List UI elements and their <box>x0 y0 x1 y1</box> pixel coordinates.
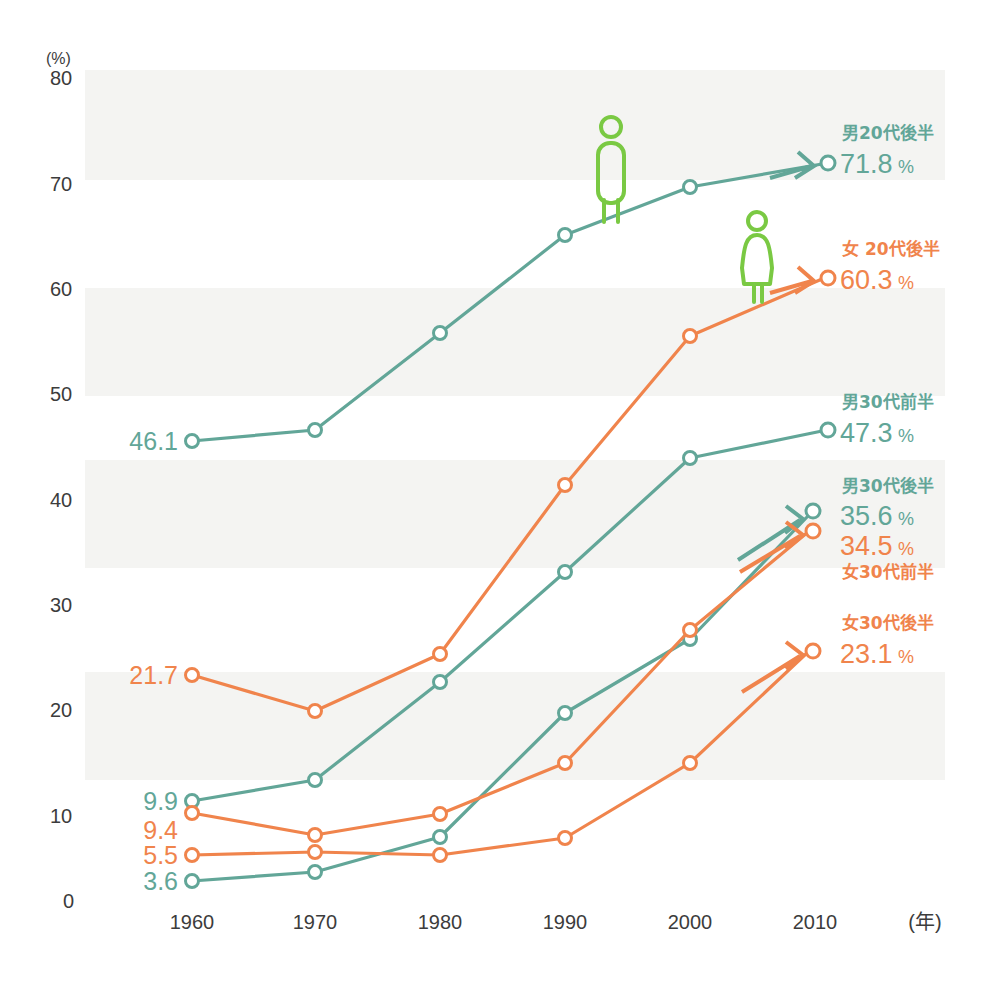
data-point <box>684 757 697 770</box>
data-point <box>684 181 697 194</box>
lead-label-9-9: 9.9 <box>143 787 178 815</box>
data-point-end <box>821 423 835 437</box>
lead-label-5-5: 5.5 <box>143 841 178 869</box>
data-point <box>559 832 572 845</box>
lead-label-21-7: 21.7 <box>129 661 178 689</box>
lead-label-9-4: 9.4 <box>143 816 178 844</box>
end-label-title: 女 20代後半 <box>842 239 940 259</box>
data-point <box>186 807 199 820</box>
y-tick-0: 0 <box>63 890 74 912</box>
data-point-end <box>806 504 820 518</box>
data-point-end <box>821 271 835 285</box>
data-point <box>434 648 447 661</box>
end-label-percent: % <box>898 157 914 177</box>
data-point-end <box>821 156 835 170</box>
data-point <box>186 435 199 448</box>
end-label-male-early30s: 男30代前半 47.3 % <box>840 392 934 448</box>
data-point <box>186 875 199 888</box>
end-label-percent: % <box>898 426 914 446</box>
x-tick-1960: 1960 <box>170 911 215 933</box>
y-tick-10: 10 <box>50 805 72 827</box>
end-label-value: 23.1 <box>840 639 893 669</box>
data-point <box>559 229 572 242</box>
data-point <box>309 846 322 859</box>
data-point <box>434 849 447 862</box>
x-tick-2000: 2000 <box>668 911 713 933</box>
end-label-female-late30s: 女30代後半 23.1 % <box>840 613 934 669</box>
x-tick-1970: 1970 <box>293 911 338 933</box>
data-point <box>309 866 322 879</box>
data-point <box>434 808 447 821</box>
end-label-title: 男30代前半 <box>842 392 934 412</box>
y-tick-50: 50 <box>50 383 72 405</box>
end-label-percent: % <box>898 647 914 667</box>
end-label-title: 男30代後半 <box>842 476 934 496</box>
data-point <box>684 624 697 637</box>
data-point <box>434 831 447 844</box>
data-point <box>186 669 199 682</box>
data-point <box>684 452 697 465</box>
data-point <box>309 424 322 437</box>
lead-label-46-1: 46.1 <box>129 427 178 455</box>
y-tick-70: 70 <box>50 173 72 195</box>
y-tick-40: 40 <box>50 489 72 511</box>
data-point <box>309 774 322 787</box>
x-axis: 1960 1970 1980 1990 2000 2010 (年) <box>170 911 942 933</box>
data-point <box>559 566 572 579</box>
y-axis-unit: (%) <box>46 50 71 67</box>
data-point <box>559 707 572 720</box>
x-tick-2010: 2010 <box>793 911 838 933</box>
end-label-percent: % <box>898 273 914 293</box>
data-point <box>434 327 447 340</box>
data-point <box>309 705 322 718</box>
y-tick-30: 30 <box>50 594 72 616</box>
end-label-percent: % <box>898 509 914 529</box>
data-point <box>434 676 447 689</box>
y-tick-80: 80 <box>50 67 72 89</box>
end-label-value: 47.3 <box>840 418 893 448</box>
y-axis: (%) 80 70 60 50 40 30 20 10 0 <box>46 50 74 912</box>
y-tick-60: 60 <box>50 278 72 300</box>
y-tick-20: 20 <box>50 699 72 721</box>
end-label-title: 男20代後半 <box>842 123 934 143</box>
data-point <box>559 757 572 770</box>
x-axis-unit: (年) <box>908 911 941 933</box>
end-label-percent: % <box>898 539 914 559</box>
x-tick-1990: 1990 <box>543 911 588 933</box>
end-label-value: 35.6 <box>840 501 893 531</box>
chart-canvas: (%) 80 70 60 50 40 30 20 10 0 1960 1970 … <box>0 0 995 993</box>
data-point-end <box>806 524 820 538</box>
x-tick-1980: 1980 <box>418 911 463 933</box>
line-chart: (%) 80 70 60 50 40 30 20 10 0 1960 1970 … <box>0 0 995 993</box>
data-point <box>559 479 572 492</box>
end-label-value: 71.8 <box>840 149 893 179</box>
data-point <box>309 829 322 842</box>
lead-label-3-6: 3.6 <box>143 867 178 895</box>
end-label-title: 女30代後半 <box>842 613 934 633</box>
end-label-title: 女30代前半 <box>842 562 934 582</box>
data-point-end <box>806 644 820 658</box>
end-label-value: 60.3 <box>840 265 893 295</box>
end-label-female-late20s: 女 20代後半 60.3 % <box>840 239 940 295</box>
data-point <box>684 330 697 343</box>
end-label-value: 34.5 <box>840 531 893 561</box>
data-point <box>186 849 199 862</box>
background-bands <box>85 70 945 780</box>
